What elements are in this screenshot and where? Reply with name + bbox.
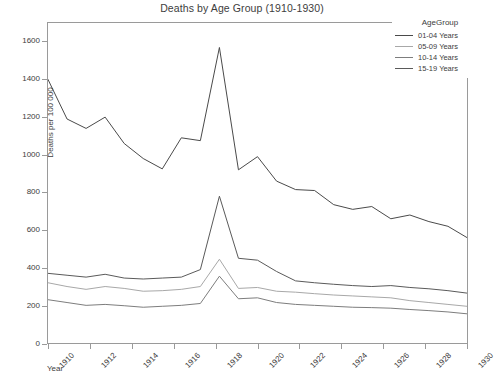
y-axis-title: Deaths per 100 000 — [46, 43, 55, 203]
x-tick-label: 1920 — [267, 351, 286, 370]
legend-item[interactable]: 05-09 Years — [395, 41, 475, 52]
x-tick-label: 1918 — [225, 351, 244, 370]
y-tick-label: 600 — [0, 225, 40, 234]
legend-item-label: 01-04 Years — [418, 31, 458, 40]
legend-items: 01-04 Years05-09 Years10-14 Years15-19 Y… — [395, 30, 475, 74]
x-tick-mark — [216, 344, 217, 349]
x-tick-label: 1924 — [351, 351, 370, 370]
legend-title: AgeGroup — [395, 18, 475, 27]
legend-swatch-icon — [395, 35, 413, 36]
x-tick-mark — [425, 344, 426, 349]
legend-item-label: 10-14 Years — [418, 53, 458, 62]
x-tick-label: 1926 — [392, 351, 411, 370]
y-tick-mark — [42, 306, 47, 307]
chart-title: Deaths by Age Group (1910-1930) — [0, 2, 484, 14]
series-line — [48, 276, 467, 314]
legend-item-label: 05-09 Years — [418, 42, 458, 51]
x-tick-label: 1914 — [141, 351, 160, 370]
legend-item-label: 15-19 Years — [418, 64, 458, 73]
y-tick-label: 400 — [0, 263, 40, 272]
x-tick-label: 1922 — [309, 351, 328, 370]
legend: AgeGroup 01-04 Years05-09 Years10-14 Yea… — [392, 14, 478, 78]
x-tick-label: 1916 — [183, 351, 202, 370]
legend-swatch-icon — [395, 46, 413, 47]
y-tick-label: 0 — [0, 339, 40, 348]
series-line — [48, 196, 467, 293]
y-tick-mark — [42, 230, 47, 231]
legend-item[interactable]: 10-14 Years — [395, 52, 475, 63]
y-tick-label: 800 — [0, 187, 40, 196]
y-tick-label: 1200 — [0, 112, 40, 121]
x-axis-title: Year — [47, 364, 127, 373]
legend-item[interactable]: 01-04 Years — [395, 30, 475, 41]
legend-swatch-icon — [395, 68, 413, 69]
y-tick-label: 200 — [0, 301, 40, 310]
x-tick-mark — [174, 344, 175, 349]
x-tick-mark — [467, 344, 468, 349]
x-tick-label: 1930 — [476, 351, 495, 370]
series-line — [48, 259, 467, 306]
x-tick-mark — [90, 344, 91, 349]
legend-item[interactable]: 15-19 Years — [395, 63, 475, 74]
x-tick-mark — [299, 344, 300, 349]
legend-swatch-icon — [395, 57, 413, 58]
x-tick-mark — [132, 344, 133, 349]
x-tick-mark — [383, 344, 384, 349]
y-tick-mark — [42, 344, 47, 345]
y-tick-mark — [42, 268, 47, 269]
x-tick-mark — [341, 344, 342, 349]
y-tick-label: 1600 — [0, 36, 40, 45]
x-tick-mark — [48, 344, 49, 349]
x-tick-mark — [258, 344, 259, 349]
y-tick-label: 1000 — [0, 150, 40, 159]
y-tick-label: 1400 — [0, 74, 40, 83]
x-tick-label: 1928 — [434, 351, 453, 370]
